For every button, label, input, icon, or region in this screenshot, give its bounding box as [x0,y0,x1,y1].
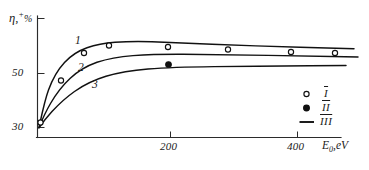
data-point-open [165,44,170,49]
legend-marker-open-circle-icon [304,91,309,96]
curve-label-2: 2 [78,62,84,74]
data-point-open [288,49,293,54]
data-point-open [225,47,230,52]
data-point-open [58,78,63,83]
data-point-filled [166,62,172,68]
data-point-open [332,50,337,55]
data-point-open [81,50,86,55]
legend-label-iii: III [320,116,332,127]
legend-label-i: I [324,88,328,99]
x-tick-label-200: 200 [160,141,177,152]
data-point-open [106,43,111,48]
x-axis-symbol: E [322,139,329,151]
legend-label-ii: II [322,102,330,113]
x-axis-title: E0,eV [322,140,348,154]
curve-label-3: 3 [92,79,98,91]
y-axis-title: η,+% [9,10,32,25]
x-tick-label-400: 400 [287,141,304,152]
curve-3 [39,66,346,129]
x-axis-units: eV [336,139,348,151]
y-tick-label-30: 30 [12,121,23,132]
legend-marker-filled-circle-icon [304,105,310,111]
data-point-open [38,120,43,125]
chart-plot-area [0,0,369,170]
curve-label-1: 1 [75,35,81,47]
y-tick-label-50: 50 [12,67,23,78]
y-axis-units: % [24,13,32,24]
figure-container: η,+% 50 30 200 400 E0,eV 1 2 3 I II III [0,0,369,170]
